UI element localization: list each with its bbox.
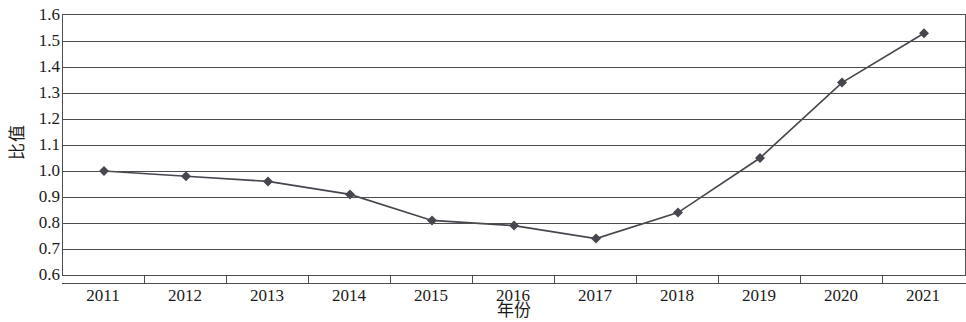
gridline: [63, 67, 965, 68]
y-tick-label: 0.6: [24, 266, 60, 283]
y-axis-tick-labels: 1.61.51.41.31.21.11.00.90.80.70.6: [24, 0, 60, 282]
x-axis-title: 年份: [62, 300, 966, 320]
gridline: [63, 41, 965, 42]
data-point-marker: [263, 176, 273, 186]
series-line: [104, 33, 924, 238]
x-tick-mark: [800, 275, 801, 283]
x-tick-mark: [636, 275, 637, 283]
gridline: [63, 171, 965, 172]
x-tick-mark: [308, 275, 309, 283]
plot-area: [62, 14, 966, 276]
gridline: [63, 197, 965, 198]
x-tick-mark: [390, 275, 391, 283]
y-tick-label: 1.5: [24, 32, 60, 49]
gridline: [63, 119, 965, 120]
y-tick-label: 1.4: [24, 58, 60, 75]
x-tick-mark: [882, 275, 883, 283]
gridline: [63, 223, 965, 224]
y-tick-label: 1.6: [24, 6, 60, 23]
gridline: [63, 93, 965, 94]
y-tick-label: 1.3: [24, 84, 60, 101]
data-point-marker: [181, 171, 191, 181]
y-tick-label: 1.1: [24, 136, 60, 153]
gridline: [63, 249, 965, 250]
x-axis-line: [62, 283, 966, 284]
x-tick-mark: [226, 275, 227, 283]
data-point-marker: [673, 208, 683, 218]
y-tick-label: 0.9: [24, 188, 60, 205]
data-point-marker: [591, 234, 601, 244]
gridline: [63, 145, 965, 146]
x-tick-mark: [554, 275, 555, 283]
line-chart: 比值 1.61.51.41.31.21.11.00.90.80.70.6 201…: [0, 0, 966, 322]
y-tick-label: 0.8: [24, 214, 60, 231]
y-tick-label: 1.2: [24, 110, 60, 127]
y-tick-label: 0.7: [24, 240, 60, 257]
x-tick-mark: [472, 275, 473, 283]
x-tick-mark: [718, 275, 719, 283]
x-tick-mark: [144, 275, 145, 283]
y-tick-label: 1.0: [24, 162, 60, 179]
x-axis-tick-marks: [62, 275, 966, 283]
data-point-marker: [919, 28, 929, 38]
